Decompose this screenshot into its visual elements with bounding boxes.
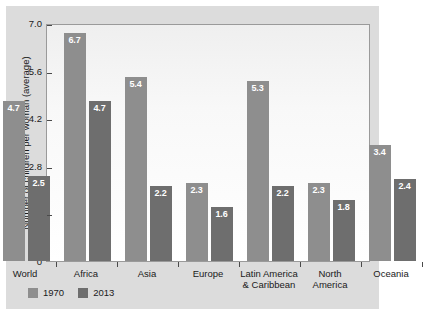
bar: 4.7 xyxy=(89,101,111,261)
bar-value-label: 1.8 xyxy=(333,202,355,212)
y-tick-mark xyxy=(47,120,52,121)
x-tick-mark xyxy=(300,262,301,267)
y-tick-mark xyxy=(47,215,52,216)
bar: 2.5 xyxy=(28,176,50,261)
bar-value-label: 3.4 xyxy=(369,147,391,157)
bar-value-label: 4.7 xyxy=(3,103,25,113)
legend-label: 1970 xyxy=(43,288,64,298)
y-tick-label: 5.6 xyxy=(16,67,42,77)
chart-legend: 19702013 xyxy=(28,288,114,298)
bar: 6.7 xyxy=(64,33,86,261)
x-tick-mark xyxy=(239,262,240,267)
legend-swatch-icon xyxy=(78,288,88,298)
bar-value-label: 6.7 xyxy=(64,35,86,45)
bar: 4.7 xyxy=(3,101,25,261)
x-tick-mark xyxy=(361,262,362,267)
bar-value-label: 2.5 xyxy=(28,178,50,188)
bar: 5.3 xyxy=(247,81,269,261)
x-tick-mark xyxy=(178,262,179,267)
x-tick-mark xyxy=(117,262,118,267)
bar: 2.3 xyxy=(308,183,330,261)
bar: 1.6 xyxy=(211,207,233,261)
bar: 2.2 xyxy=(150,186,172,261)
y-tick-mark xyxy=(47,73,52,74)
bar-value-label: 2.3 xyxy=(186,185,208,195)
bar: 2.4 xyxy=(394,179,416,261)
bar: 1.8 xyxy=(333,200,355,261)
bar-value-label: 2.2 xyxy=(150,188,172,198)
bar-value-label: 1.6 xyxy=(211,209,233,219)
bar-value-label: 2.2 xyxy=(272,188,294,198)
y-tick-mark xyxy=(47,168,52,169)
legend-item[interactable]: 2013 xyxy=(78,288,114,298)
plot-area: 4.72.56.74.75.42.22.31.65.32.22.31.83.42… xyxy=(46,24,370,262)
chart-figure: Number of children per woman (average) 0… xyxy=(6,6,379,309)
bar-value-label: 2.3 xyxy=(308,185,330,195)
bar-value-label: 5.3 xyxy=(247,83,269,93)
x-tick-mark xyxy=(422,262,423,267)
bar: 5.4 xyxy=(125,77,147,261)
x-axis-label-line: America xyxy=(280,279,380,290)
legend-item[interactable]: 1970 xyxy=(28,288,64,298)
bar-value-label: 4.7 xyxy=(89,103,111,113)
bar: 2.2 xyxy=(272,186,294,261)
bar: 2.3 xyxy=(186,183,208,261)
y-tick-label: 7.0 xyxy=(16,19,42,29)
bar-value-label: 2.4 xyxy=(394,181,416,191)
x-axis-label: Oceania xyxy=(341,268,427,279)
bar: 3.4 xyxy=(369,145,391,261)
x-tick-mark xyxy=(56,262,57,267)
legend-label: 2013 xyxy=(93,288,114,298)
bar-value-label: 5.4 xyxy=(125,79,147,89)
x-axis-label-line: Oceania xyxy=(341,268,427,279)
legend-swatch-icon xyxy=(28,288,38,298)
y-tick-mark xyxy=(47,25,52,26)
